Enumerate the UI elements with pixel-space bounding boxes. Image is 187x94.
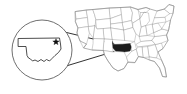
- state-montana: [93, 8, 111, 20]
- locator-map-svg: [0, 0, 187, 94]
- state-new-mexico: [104, 39, 114, 52]
- state-pennsylvania: [153, 17, 167, 24]
- state-oklahoma-highlight: [113, 42, 132, 53]
- state-wyoming: [96, 19, 111, 30]
- locator-map-figure: United States locator map with Oklahoma …: [0, 0, 187, 94]
- state-kansas: [111, 28, 125, 41]
- inset-magnifier-group: [12, 20, 72, 80]
- state-florida: [150, 57, 167, 77]
- us-basemap-group: [76, 5, 175, 78]
- state-minnesota: [121, 7, 133, 23]
- state-arizona: [92, 39, 105, 51]
